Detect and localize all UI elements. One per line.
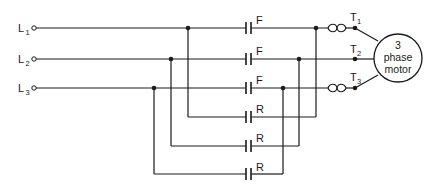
junction-l2-right [297,57,302,62]
forward-contact-1-label: F [256,14,263,26]
reverse-contact-2-label: R [256,132,264,144]
junction-l1-right [314,26,319,31]
line-label-l1-text: L [18,22,24,34]
forward-contact-3: F [246,74,263,94]
svg-text:1: 1 [357,17,361,26]
input-terminal-l3 [32,86,36,90]
junction-l3-left [152,86,157,91]
forward-contact-3-label: F [256,74,263,86]
input-terminal-l1 [32,26,36,30]
motor: 3 phase motor [374,34,422,82]
input-terminal-l2 [32,57,36,61]
forward-contact-1: F [246,14,263,34]
reverse-contact-3-label: R [256,161,264,173]
svg-text:T: T [350,11,357,23]
line-label-l2-sub: 2 [26,59,30,68]
terminal-label-t2: T 2 [350,43,361,58]
line-label-l3: L 3 [18,82,30,97]
terminal-label-t3: T 3 [350,71,361,86]
motor-reversing-diagram: L 1 L 2 L 3 F F F [0,0,441,192]
line-label-l3-sub: 3 [26,88,30,97]
svg-text:T: T [350,43,357,55]
reverse-contact-3: R [154,161,283,180]
line-label-l2-text: L [18,53,24,65]
forward-contact-2-label: F [256,45,263,57]
overload-l1 [328,24,346,32]
motor-label-line2: phase [384,51,413,63]
reverse-contact-1-label: R [256,103,264,115]
junction-l1-left [186,26,191,31]
lead-t1-motor [355,28,378,41]
line-label-l1: L 1 [18,22,30,37]
reverse-contact-1: R [188,103,316,123]
svg-text:T: T [350,71,357,83]
motor-label-line3: motor [385,63,412,75]
junction-l2-left [169,57,174,62]
line-label-l1-sub: 1 [26,28,30,37]
reverse-contact-2: R [171,132,299,152]
terminal-label-t1: T 1 [350,11,361,26]
overload-l3 [328,84,346,92]
junction-l3-right [281,86,286,91]
line-label-l3-text: L [18,82,24,94]
svg-text:2: 2 [357,49,361,58]
line-label-l2: L 2 [18,53,30,68]
forward-contact-2: F [246,45,263,65]
motor-label-line1: 3 [395,39,401,51]
